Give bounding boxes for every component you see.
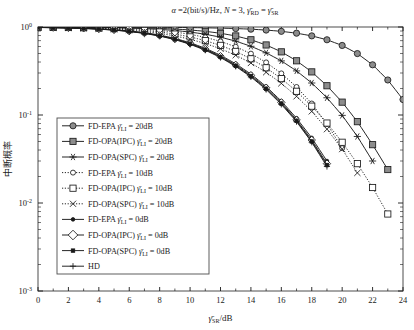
- data-point-square-filled: [354, 119, 360, 125]
- outage-probability-chart: α =2(bit/s)/Hz, N = 3, γ̄RD = γ̄SR 02468…: [0, 0, 414, 330]
- legend-label: FD-OPA(IPC) γ̄LI = 10dB: [88, 184, 173, 194]
- y-tick-label: 10-1: [19, 110, 33, 120]
- data-point-circle-filled: [339, 42, 345, 48]
- data-point-circle-filled: [369, 62, 375, 68]
- chart-legend: FD-EPA γ̄LI = 20dBFD-OPA(IPC) γ̄LI = 20d…: [57, 118, 209, 274]
- x-tick-label: 20: [338, 295, 347, 305]
- data-point-square-open: [339, 139, 345, 145]
- data-point-circle-open: [264, 60, 269, 65]
- x-tick-label: 2: [66, 295, 70, 305]
- data-point-circle-filled: [309, 33, 315, 39]
- data-point-circle-filled: [263, 27, 269, 33]
- chart-title-text: α =2(bit/s)/Hz, N = 3, γ̄RD = γ̄SR: [171, 5, 278, 16]
- data-point-circle-filled: [293, 30, 299, 36]
- data-point-square-filled: [263, 42, 269, 48]
- x-tick-label: 14: [247, 295, 256, 305]
- data-point-square-filled: [369, 142, 375, 148]
- data-point-circle-filled: [233, 25, 239, 31]
- figure-container: α =2(bit/s)/Hz, N = 3, γ̄RD = γ̄SR 02468…: [0, 0, 414, 330]
- legend-label: FD-OPA(SPC) γ̄LI = 0dB: [88, 247, 171, 257]
- data-point-square-open: [202, 38, 208, 44]
- data-point-circle-filled: [400, 96, 406, 102]
- data-point-circle-open: [71, 170, 76, 175]
- legend-label: FD-OPA(SPC) γ̄LI = 10dB: [88, 200, 175, 210]
- x-tick-label: 18: [308, 295, 317, 305]
- legend-label: FD-EPA γ̄LI = 0dB: [88, 215, 149, 225]
- data-point-square-filled: [217, 30, 223, 36]
- x-tick-label: 12: [216, 295, 225, 305]
- x-tick-label: 8: [158, 295, 162, 305]
- data-point-square-open: [369, 184, 375, 190]
- data-point-square-open: [309, 103, 315, 109]
- data-point-square-open: [324, 120, 330, 126]
- legend-label: FD-EPA γ̄LI = 20dB: [88, 122, 153, 132]
- chart-title: α =2(bit/s)/Hz, N = 3, γ̄RD = γ̄SR: [171, 5, 278, 16]
- legend-label: HD: [88, 262, 100, 271]
- data-point-square-filled: [324, 83, 330, 89]
- data-point-square-filled: [233, 33, 239, 39]
- y-tick-label: 100: [21, 22, 33, 32]
- x-tick-label: 10: [186, 295, 195, 305]
- data-point-square-filled: [248, 37, 254, 43]
- x-tick-label: 0: [36, 295, 40, 305]
- data-point-square-open: [354, 161, 360, 167]
- y-axis-label: 中断概率: [2, 141, 13, 177]
- legend-label: FD-OPA(IPC) γ̄LI = 20dB: [88, 137, 173, 147]
- data-point-square-open: [70, 185, 76, 191]
- data-point-square-tiny-filled: [71, 249, 74, 252]
- data-point-circle-filled: [354, 50, 360, 56]
- data-point-square-filled: [293, 58, 299, 64]
- data-point-square-filled: [385, 166, 391, 172]
- data-point-circle-filled: [70, 123, 76, 129]
- legend-label: FD-EPA γ̄LI = 10dB: [88, 169, 153, 179]
- data-point-square-filled: [339, 99, 345, 105]
- legend-label: FD-OPA(SPC) γ̄LI = 20dB: [88, 153, 175, 163]
- x-tick-label: 6: [127, 295, 131, 305]
- data-point-circle-small-filled: [71, 218, 75, 222]
- x-tick-label: 16: [277, 295, 286, 305]
- x-axis-label: γ̄SR/dB: [209, 313, 233, 324]
- x-tick-label: 24: [399, 295, 408, 305]
- data-point-square-open: [293, 88, 299, 94]
- data-point-square-filled: [309, 69, 315, 75]
- data-point-circle-filled: [278, 28, 284, 34]
- x-tick-label: 22: [368, 295, 377, 305]
- x-tick-label: 4: [97, 295, 102, 305]
- data-point-circle-filled: [324, 37, 330, 43]
- data-point-square-open: [385, 211, 391, 217]
- y-tick-label: 10-2: [19, 198, 33, 208]
- data-point-square-filled: [278, 49, 284, 55]
- data-point-square-filled: [70, 138, 76, 144]
- legend-label: FD-OPA(IPC) γ̄LI = 0dB: [88, 231, 169, 241]
- y-tick-label: 10-3: [19, 286, 33, 296]
- data-point-circle-filled: [385, 77, 391, 83]
